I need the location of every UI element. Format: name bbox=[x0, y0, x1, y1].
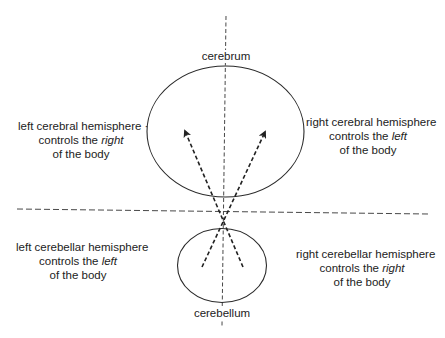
cerebrum-outline bbox=[147, 66, 304, 197]
left-cerebellar-line1: left cerebellar hemisphere bbox=[16, 240, 140, 254]
right-cerebellar-line2: controls the right bbox=[296, 261, 428, 275]
left-cerebral-line3: of the body bbox=[18, 147, 144, 161]
left-cerebral-line1: left cerebral hemisphere · bbox=[18, 119, 144, 133]
right-cerebellar-line3: of the body bbox=[296, 275, 428, 289]
cerebellum-label: cerebellum bbox=[193, 307, 251, 320]
left-cerebral-line2: controls the right bbox=[18, 133, 144, 147]
right-cerebral-annotation: right cerebral hemisphere controls the l… bbox=[306, 115, 430, 157]
left-cerebellar-annotation: left cerebellar hemisphere controls the … bbox=[16, 240, 140, 282]
left-cerebellar-line2: controls the left bbox=[16, 254, 140, 268]
right-cerebellar-line1: right cerebellar hemisphere bbox=[296, 247, 428, 261]
cerebrum-label: cerebrum bbox=[201, 50, 252, 63]
right-cerebral-line3: of the body bbox=[306, 143, 430, 157]
right-cerebral-line2: controls the left bbox=[306, 129, 430, 143]
right-cerebral-line1: right cerebral hemisphere bbox=[306, 115, 430, 129]
left-cerebellar-line3: of the body bbox=[16, 268, 140, 282]
horizontal-divider bbox=[17, 209, 428, 214]
right-cerebellar-annotation: right cerebellar hemisphere controls the… bbox=[296, 247, 428, 289]
left-cerebral-annotation: left cerebral hemisphere · controls the … bbox=[18, 119, 144, 161]
